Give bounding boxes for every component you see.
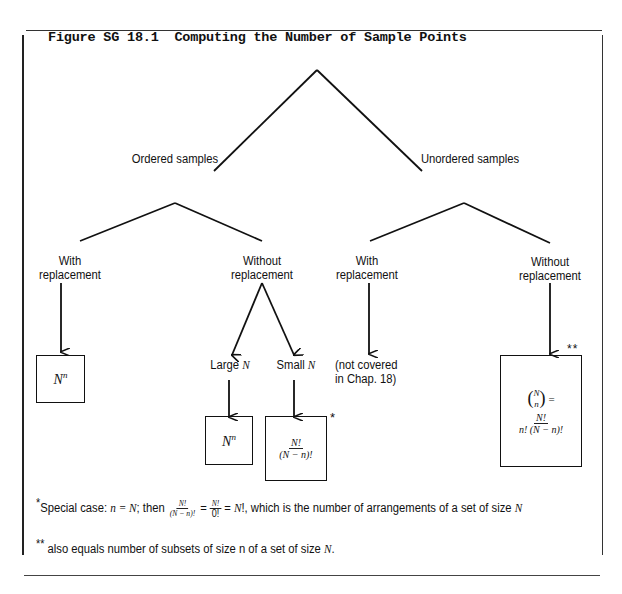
result-box-large-n: Nn: [205, 416, 253, 465]
not-covered-label: (not covered in Chap. 18): [335, 358, 407, 386]
label-line: With: [34, 254, 106, 268]
note-fraction-2: N!0!: [210, 499, 221, 518]
unordered-samples-label: Unordered samples: [407, 152, 533, 166]
label-line: Without: [512, 255, 588, 269]
note-text: also equals number of subsets of size n …: [44, 542, 324, 556]
right-paren: ): [539, 388, 545, 409]
power-formula: Nn: [54, 370, 68, 388]
binomial-coefficient: ( N n ) =: [527, 388, 554, 410]
note-text: Special case:: [40, 501, 110, 515]
note-text: !, which is the number of arrangements o…: [241, 501, 514, 515]
numerator: N!: [289, 437, 303, 449]
unordered-with-replacement-label: With replacement: [331, 254, 403, 282]
exponent: n: [231, 432, 236, 442]
exponent: n: [63, 370, 68, 380]
label-line: replacement: [34, 268, 106, 282]
binom-bottom: n: [534, 399, 539, 410]
footnote-special-case: *Special case: n = N; then N!(N − n)! = …: [36, 496, 522, 518]
power-formula: Nn: [222, 432, 236, 450]
ordered-with-replacement-label: With replacement: [34, 254, 106, 282]
note-text: ; then: [137, 501, 168, 515]
denominator: (N − n)!: [277, 449, 314, 460]
denominator: (N − n)!: [168, 509, 197, 518]
base: N: [54, 372, 63, 387]
footnote-marker-single: *: [330, 410, 335, 425]
result-box-unordered-without: ( N n ) = N! n! (N − n)!: [500, 355, 582, 467]
ordered-samples-label: Ordered samples: [121, 152, 229, 166]
ordered-without-replacement-label: Without replacement: [226, 254, 298, 282]
label-line: (not covered: [335, 358, 407, 372]
label-line: replacement: [226, 268, 298, 282]
n-variable: N: [242, 358, 250, 372]
equals-sign: =: [197, 501, 210, 515]
unordered-without-replacement-label: Without replacement: [512, 255, 588, 283]
combination-fraction: N! n! (N − n)!: [517, 412, 565, 435]
label-line: replacement: [512, 269, 588, 283]
footnote-subsets: ** also equals number of subsets of size…: [36, 537, 335, 557]
label-line: in Chap. 18): [335, 372, 407, 386]
footnote-marker-double: **: [567, 342, 578, 356]
label-text: Small: [277, 358, 308, 372]
equals-sign: =: [548, 393, 554, 405]
label-text: Large: [210, 358, 242, 372]
n-variable: N: [308, 358, 316, 372]
large-n-label: Large N: [201, 358, 259, 372]
denominator: n! (N − n)!: [517, 424, 565, 435]
result-box-ordered-with: Nn: [36, 355, 85, 403]
equals-sign: =: [221, 501, 234, 515]
label-line: Without: [226, 254, 298, 268]
label-line: replacement: [331, 268, 403, 282]
note-fraction-1: N!(N − n)!: [168, 499, 197, 518]
denominator: 0!: [210, 509, 221, 518]
note-text: .: [331, 542, 334, 556]
result-box-small-n: N! (N − n)!: [265, 416, 327, 481]
label-line: With: [331, 254, 403, 268]
note-math: N: [515, 501, 523, 515]
small-n-label: Small N: [267, 358, 325, 372]
note-math: n = N: [110, 501, 136, 515]
permutation-fraction: N! (N − n)!: [277, 437, 314, 460]
numerator: N!: [534, 412, 548, 424]
